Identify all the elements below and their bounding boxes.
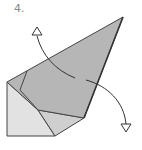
- arrowhead-up-icon: [32, 27, 42, 35]
- arrowhead-down-icon: [121, 124, 131, 132]
- origami-diagram: [0, 0, 142, 150]
